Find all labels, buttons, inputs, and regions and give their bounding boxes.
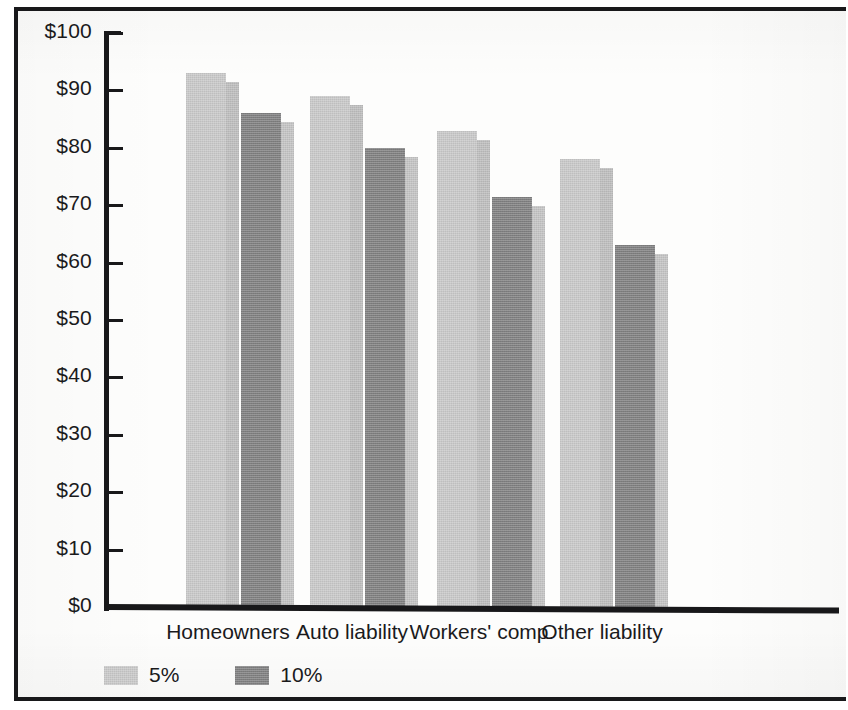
y-axis-tick [109,147,123,150]
category-label: Other liability [520,620,684,644]
legend-swatch [235,666,269,685]
bar-texture [477,140,490,607]
y-axis-tick [109,376,123,379]
bar-texture [600,168,613,607]
bar-depth-face [532,206,545,607]
legend-label: 10% [280,663,322,687]
y-axis-tick [109,204,123,207]
bar-depth-face [405,157,418,607]
y-axis-tick-label: $60 [8,249,92,273]
y-axis-tick [109,434,123,437]
legend-item[interactable]: 5% [104,663,235,687]
y-axis-tick-label: $10 [8,536,92,560]
y-axis-tick [109,491,123,494]
bar-chart: $0$10$20$30$40$50$60$70$80$90$100 Homeow… [0,0,848,710]
bar-front-face [310,96,350,607]
bar-front-face [492,197,532,607]
bar [186,73,226,607]
bar-depth-face [655,254,668,607]
bar-texture [365,148,405,607]
legend-swatch-texture [235,666,269,685]
legend-item[interactable]: 10% [235,663,378,687]
y-axis-tick [109,262,123,265]
y-axis-tick-label: $0 [8,593,92,617]
legend-swatch [104,666,138,685]
bar-depth-face [226,82,239,607]
bar-texture [350,105,363,607]
legend-swatch-texture [104,666,138,685]
bar-texture [405,157,418,607]
bar-front-face [615,245,655,607]
bar-texture [492,197,532,607]
bar-front-face [365,148,405,607]
bar-front-face [560,159,600,607]
bar-texture [186,73,226,607]
bar-texture [241,113,281,607]
bar-texture [615,245,655,607]
y-axis-tick-label: $50 [8,306,92,330]
bar [615,245,655,607]
y-axis-tick [109,319,123,322]
y-axis-tick-label: $30 [8,421,92,445]
bar-depth-face [600,168,613,607]
bar-texture [655,254,668,607]
bar-front-face [241,113,281,607]
bar [310,96,350,607]
legend-label: 5% [149,663,179,687]
bar [492,197,532,607]
bar-texture [310,96,350,607]
bar-front-face [186,73,226,607]
y-axis-tick [109,89,123,92]
chart-legend: 5%10% [104,663,378,687]
y-axis-tick-label: $20 [8,478,92,502]
bar-texture [226,82,239,607]
y-axis-tick-label: $90 [8,76,92,100]
bar-texture [532,206,545,607]
y-axis-tick-label: $70 [8,191,92,215]
bar [437,131,477,607]
bar-texture [281,122,294,607]
x-axis-line [104,604,839,614]
bar-texture [560,159,600,607]
bar-texture [437,131,477,607]
y-axis-tick-label: $40 [8,363,92,387]
bar [560,159,600,607]
y-axis-tick [109,32,123,35]
bar-depth-face [281,122,294,607]
bar-front-face [437,131,477,607]
y-axis-tick-label: $100 [8,19,92,43]
bar-depth-face [350,105,363,607]
bar [365,148,405,607]
bar-depth-face [477,140,490,607]
y-axis-tick-label: $80 [8,134,92,158]
bar [241,113,281,607]
y-axis-tick [109,549,123,552]
